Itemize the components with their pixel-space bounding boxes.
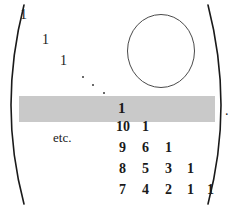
- ellipsis-dot-2: [92, 84, 94, 86]
- ellipsis-dot-1: [82, 76, 84, 78]
- matrix-cell: 1: [165, 141, 172, 155]
- diagonal-one-2: 1: [42, 33, 49, 47]
- matrix-cell: 6: [142, 141, 149, 155]
- matrix-cell: 1: [142, 120, 149, 134]
- etc-label: etc.: [53, 131, 71, 144]
- ellipsis-dot-3: [103, 92, 105, 94]
- matrix-cell: 9: [119, 141, 126, 155]
- circle-annotation: [126, 13, 196, 89]
- matrix-cell: 4: [142, 183, 149, 197]
- trailing-period: .: [225, 104, 229, 118]
- matrix-cell: 5: [142, 162, 149, 176]
- matrix-cell: 7: [119, 183, 126, 197]
- matrix-cell: 1: [187, 183, 194, 197]
- matrix-cell: 1: [187, 162, 194, 176]
- matrix-figure: etc. . 1111101961853174211: [0, 0, 237, 210]
- diagonal-one-1: 1: [20, 8, 27, 22]
- matrix-cell: 2: [165, 183, 172, 197]
- matrix-cell: 1: [118, 101, 126, 115]
- diagonal-one-3: 1: [60, 54, 67, 68]
- matrix-cell: 3: [165, 162, 172, 176]
- matrix-cell: 8: [119, 162, 126, 176]
- matrix-cell: 1: [207, 183, 214, 197]
- matrix-cell: 10: [116, 120, 130, 134]
